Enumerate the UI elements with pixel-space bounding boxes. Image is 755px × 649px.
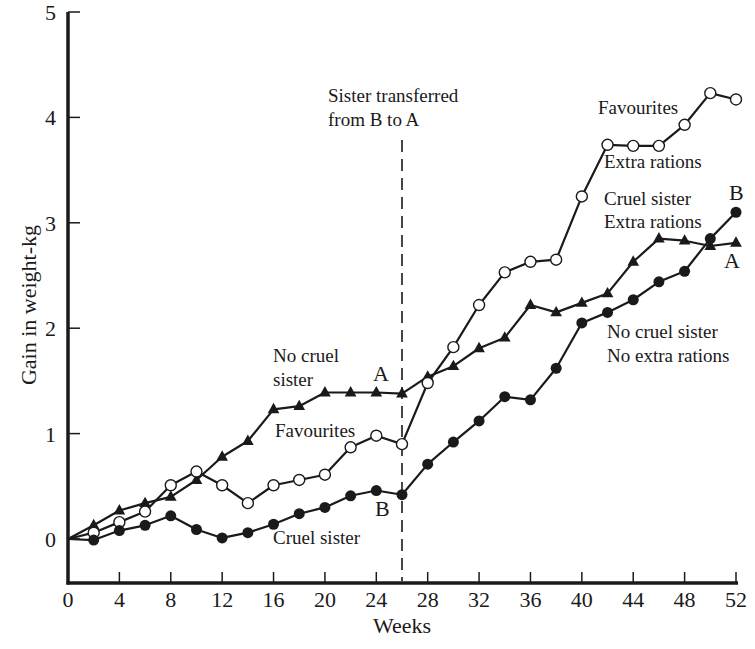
- triangle-marker: [370, 386, 382, 396]
- x-tick-label: 36: [519, 587, 541, 612]
- annotation-label: B: [375, 496, 390, 521]
- x-tick-label: 12: [211, 587, 233, 612]
- x-tick-label: 28: [417, 587, 439, 612]
- filled-circle-marker: [474, 415, 485, 426]
- open-circle-marker: [705, 88, 716, 99]
- open-circle-marker: [602, 139, 613, 150]
- filled-circle-marker: [525, 394, 536, 405]
- open-circle-marker: [551, 254, 562, 265]
- triangle-marker: [396, 387, 408, 397]
- filled-circle-marker: [345, 490, 356, 501]
- annotation-label: Favourites: [275, 420, 355, 441]
- open-circle-marker: [679, 119, 690, 130]
- open-circle-marker: [731, 94, 742, 105]
- annotation-label: No cruel: [273, 345, 339, 366]
- open-circle-marker: [397, 439, 408, 450]
- annotations: Sister transferredfrom B to ANo cruelsis…: [273, 85, 744, 548]
- annotation-label: B: [729, 180, 744, 205]
- y-tick-label: 4: [45, 105, 56, 130]
- x-tick-label: 16: [263, 587, 285, 612]
- triangle-marker: [319, 386, 331, 396]
- x-tick-label: 4: [114, 587, 125, 612]
- filled-circle-marker: [679, 266, 690, 277]
- open-circle-marker: [268, 480, 279, 491]
- triangle-marker: [653, 232, 665, 242]
- filled-circle-marker: [499, 391, 510, 402]
- open-circle-marker: [448, 342, 459, 353]
- filled-circle-marker: [319, 502, 330, 513]
- open-circle-marker: [628, 140, 639, 151]
- annotation-label: Extra rations: [604, 211, 702, 232]
- open-circle-marker: [294, 474, 305, 485]
- filled-circle-marker: [602, 307, 613, 318]
- open-circle-marker: [191, 466, 202, 477]
- x-tick-label: 24: [365, 587, 387, 612]
- x-tick-label: 40: [571, 587, 593, 612]
- annotation-label: Cruel sister: [604, 188, 692, 209]
- x-tick-label: 0: [63, 587, 74, 612]
- filled-circle-marker: [397, 489, 408, 500]
- filled-circle-marker: [165, 510, 176, 521]
- filled-circle-marker: [448, 437, 459, 448]
- annotation-label: Sister transferred: [328, 85, 459, 106]
- x-tick-label: 32: [468, 587, 490, 612]
- y-tick-label: 0: [45, 527, 56, 552]
- annotation-label: Extra rations: [604, 151, 702, 172]
- filled-circle-marker: [140, 520, 151, 531]
- y-tick-label: 3: [45, 211, 56, 236]
- annotation-label: No cruel sister: [607, 321, 718, 342]
- filled-circle-marker: [731, 207, 742, 218]
- filled-circle-marker: [242, 527, 253, 538]
- open-circle-marker: [371, 430, 382, 441]
- annotation-label: A: [724, 248, 740, 273]
- x-tick-label: 52: [725, 587, 747, 612]
- annotation-label: A: [373, 361, 389, 386]
- open-circle-marker: [576, 191, 587, 202]
- y-tick-label: 1: [45, 422, 56, 447]
- x-tick-label: 20: [314, 587, 336, 612]
- open-circle-marker: [345, 442, 356, 453]
- filled-circle-marker: [114, 525, 125, 536]
- weight-gain-chart: 0123450481216202428323640444852 Sister t…: [0, 0, 755, 649]
- y-tick-label: 2: [45, 316, 56, 341]
- open-circle-marker: [653, 140, 664, 151]
- filled-circle-marker: [551, 363, 562, 374]
- filled-circle-marker: [294, 508, 305, 519]
- x-tick-label: 44: [622, 587, 644, 612]
- annotation-label: Cruel sister: [273, 527, 361, 548]
- open-circle-marker: [474, 300, 485, 311]
- triangle-marker: [165, 490, 177, 500]
- open-circle-marker: [165, 480, 176, 491]
- filled-circle-marker: [371, 485, 382, 496]
- annotation-label: No extra rations: [607, 345, 729, 366]
- filled-circle-marker: [653, 276, 664, 287]
- annotation-label: Favourites: [598, 97, 678, 118]
- filled-circle-marker: [422, 459, 433, 470]
- open-circle-marker: [319, 469, 330, 480]
- x-axis-title: Weeks: [373, 613, 431, 638]
- filled-circle-marker: [88, 535, 99, 546]
- annotation-label: from B to A: [328, 109, 420, 130]
- filled-circle-marker: [217, 532, 228, 543]
- open-circle-marker: [217, 480, 228, 491]
- open-circle-marker: [525, 256, 536, 267]
- triangle-marker: [448, 360, 460, 370]
- filled-circle-marker: [628, 294, 639, 305]
- x-tick-label: 8: [165, 587, 176, 612]
- y-axis-title: Gain in weight-kg: [16, 225, 41, 385]
- x-tick-label: 48: [674, 587, 696, 612]
- open-circle-marker: [140, 506, 151, 517]
- open-circle-marker: [422, 378, 433, 389]
- annotation-label: sister: [273, 369, 314, 390]
- triangle-marker: [345, 386, 357, 396]
- open-circle-marker: [242, 498, 253, 509]
- y-tick-label: 5: [45, 0, 56, 25]
- filled-circle-marker: [191, 524, 202, 535]
- open-circle-marker: [499, 267, 510, 278]
- filled-circle-marker: [576, 317, 587, 328]
- triangle-marker: [525, 299, 537, 309]
- triangle-marker: [730, 236, 742, 246]
- filled-circle-marker: [705, 233, 716, 244]
